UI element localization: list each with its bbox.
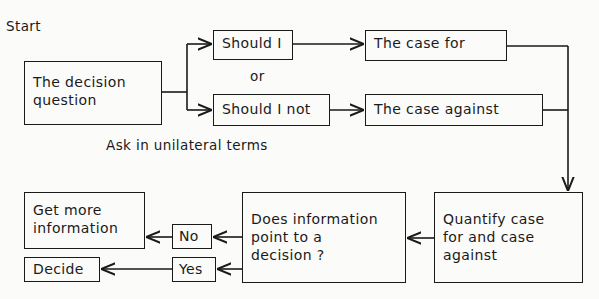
decision-question-node: The decision question [24, 61, 162, 125]
node-text: point to a [251, 228, 397, 246]
does-information-node: Does information point to a decision ? [242, 192, 406, 283]
should-i-not-node: Should I not [213, 94, 330, 126]
start-label: Start [6, 18, 41, 34]
node-text: Quantify case [443, 210, 574, 228]
get-more-information-node: Get more information [24, 192, 145, 249]
node-text: question [33, 91, 153, 109]
node-text: The decision [33, 73, 153, 91]
yes-node: Yes [172, 257, 216, 282]
unilateral-note: Ask in unilateral terms [106, 137, 268, 153]
case-against-node: The case against [365, 94, 543, 126]
node-text: information [33, 219, 136, 237]
node-text: for and case [443, 228, 574, 246]
node-text: Does information [251, 210, 397, 228]
no-node: No [172, 224, 212, 249]
should-i-node: Should I [213, 30, 293, 60]
quantify-node: Quantify case for and case against [434, 192, 583, 283]
node-text: decision ? [251, 246, 397, 264]
or-label: or [250, 68, 265, 84]
case-for-node: The case for [365, 30, 507, 61]
decide-node: Decide [24, 257, 100, 282]
node-text: Get more [33, 201, 136, 219]
node-text: against [443, 246, 574, 264]
